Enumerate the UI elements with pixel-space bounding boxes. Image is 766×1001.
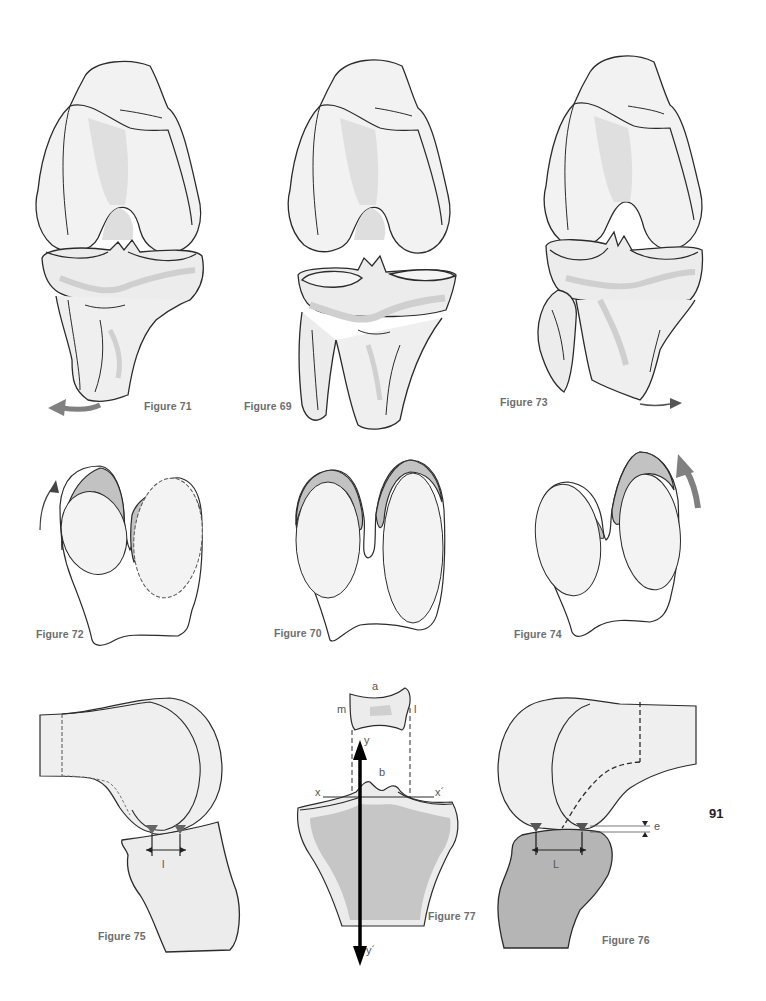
label-L: L (553, 858, 559, 870)
femoral-condyle-rolling-diagram (0, 690, 260, 1001)
tibial-axis-diagram (280, 680, 500, 990)
rotation-arrow-up-left-icon (40, 486, 54, 530)
figure-72-caption: Figure 72 (36, 628, 84, 640)
label-l-lateral: l (414, 703, 416, 715)
figure-71: Figure 71 (0, 0, 250, 430)
figure-74-caption: Figure 74 (514, 628, 562, 640)
label-y-prime: y´ (366, 944, 375, 956)
tibial-plateau-contact-internal-rotation (0, 440, 260, 660)
figure-76-caption: Figure 76 (602, 934, 650, 946)
page-number: 91 (709, 806, 723, 821)
figure-77: a m l y b x x´ y´ Figure 77 (280, 680, 500, 990)
rotation-arrow-left-icon (62, 405, 100, 409)
label-m: m (337, 703, 346, 715)
figure-74: Figure 74 (500, 440, 740, 660)
figure-76: L e Figure 76 (490, 680, 766, 990)
figure-73-caption: Figure 73 (500, 396, 548, 408)
figure-69: Figure 69 (240, 0, 490, 440)
knee-anterior-view-external-rotation (490, 0, 740, 440)
rotation-arrow-up-right-icon (686, 470, 698, 508)
label-a: a (372, 680, 378, 692)
label-x-prime: x´ (435, 786, 444, 798)
figure-69-caption: Figure 69 (244, 400, 292, 412)
figure-70: Figure 70 (260, 440, 500, 660)
label-b: b (379, 766, 385, 778)
label-x: x (315, 786, 321, 798)
figure-72: Figure 72 (0, 440, 260, 660)
tibial-plateau-contact-external-rotation (500, 440, 740, 660)
figure-77-caption: Figure 77 (428, 910, 476, 922)
label-y: y (364, 734, 370, 746)
knee-anterior-view-internal-rotation (0, 0, 250, 430)
label-l: l (162, 858, 164, 870)
figure-75: l Figure 75 (0, 690, 260, 1001)
figure-75-caption: Figure 75 (98, 930, 146, 942)
knee-anterior-view-neutral (240, 0, 490, 440)
label-e: e (654, 820, 660, 832)
figure-70-caption: Figure 70 (274, 627, 322, 639)
rotation-arrow-right-icon (640, 404, 670, 406)
figure-73: Figure 73 (490, 0, 740, 440)
figure-71-caption: Figure 71 (144, 400, 192, 412)
